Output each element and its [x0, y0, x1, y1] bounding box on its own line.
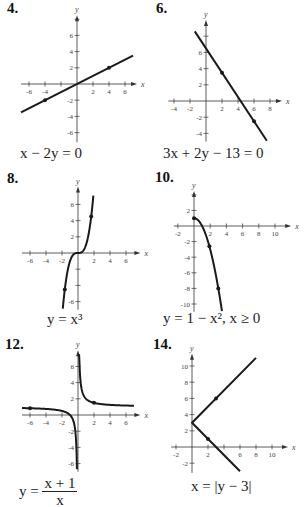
y-tick-label: 2 — [199, 81, 203, 89]
y-tick-label: 4 — [71, 217, 75, 225]
y-tick-label: -6 — [184, 269, 190, 277]
y-tick-label: -6 — [68, 460, 74, 468]
y-axis-arrow-icon — [192, 191, 196, 197]
y-tick-label: 8 — [185, 379, 189, 387]
x-tick-label: -4 — [42, 88, 48, 96]
y-axis-label: y — [189, 344, 194, 353]
equation-14: x = |y − 3| — [191, 478, 251, 495]
x-tick-label: 6 — [252, 105, 256, 113]
point-marker — [89, 215, 93, 219]
y-axis-arrow-icon — [75, 15, 79, 21]
y-tick-label: 6 — [71, 201, 75, 209]
y-tick-label: -4 — [68, 444, 74, 452]
y-tick-label: -2 — [68, 428, 74, 436]
y-tick-label: 6 — [71, 363, 75, 371]
y-axis-arrow-icon — [190, 354, 194, 360]
x-tick-label: -2 — [187, 105, 193, 113]
y-tick-label: -4 — [67, 113, 73, 121]
y-tick-label: -6 — [68, 298, 74, 306]
x-axis-arrow-icon — [285, 224, 291, 228]
y-tick-label: 6 — [70, 32, 74, 40]
problem-number-14: 14. — [153, 336, 172, 353]
chart-p12: xy-6-4-2246-6-4-2246 — [22, 340, 148, 472]
y-axis-label: y — [75, 177, 80, 186]
y-tick-label: -4 — [184, 254, 190, 262]
x-axis-arrow-icon — [134, 413, 140, 417]
y-axis-label: y — [203, 10, 208, 19]
point-marker — [207, 244, 211, 248]
x-tick-label: 4 — [108, 419, 112, 427]
x-tick-label: -6 — [27, 419, 33, 427]
x-axis-label: x — [140, 80, 145, 89]
x-tick-label: 6 — [123, 88, 127, 96]
point-marker — [107, 66, 111, 70]
x-tick-label: -4 — [43, 419, 49, 427]
x-tick-label: 4 — [107, 88, 111, 96]
x-tick-label: 2 — [92, 419, 96, 427]
y-tick-label: 4 — [185, 411, 189, 419]
y-axis-arrow-icon — [204, 20, 208, 26]
x-axis-arrow-icon — [134, 251, 140, 255]
y-tick-label: -2 — [67, 97, 73, 105]
point-marker — [92, 401, 96, 405]
x-axis-label: x — [291, 443, 296, 452]
equation-8: y = x³ — [47, 311, 82, 328]
equation-12-fraction: x + 1 x — [42, 475, 77, 507]
y-tick-label: 2 — [71, 395, 75, 403]
y-tick-label: 4 — [71, 379, 75, 387]
graphs-canvas: xy-6-4246-6-4-2246xy-4-22468-4-2246xy-6-… — [0, 0, 306, 507]
point-marker — [63, 287, 67, 291]
problem-number-4: 4. — [7, 0, 18, 17]
x-axis-label: x — [143, 249, 148, 258]
y-tick-label: 4 — [70, 48, 74, 56]
y-tick-label: -10 — [181, 301, 191, 309]
x-tick-label: 2 — [92, 257, 96, 265]
point-marker — [28, 406, 32, 410]
x-tick-label: 4 — [108, 257, 112, 265]
x-tick-label: -6 — [26, 88, 32, 96]
x-tick-label: 2 — [91, 88, 95, 96]
x-tick-label: -2 — [175, 230, 181, 238]
y-tick-label: -6 — [67, 129, 73, 137]
x-tick-label: 4 — [225, 230, 229, 238]
x-tick-label: 10 — [272, 230, 280, 238]
y-tick-label: 4 — [199, 65, 203, 73]
x-tick-label: -2 — [173, 451, 179, 459]
chart-p14: xy-226810-2246810 — [171, 344, 296, 473]
y-tick-label: -2 — [182, 460, 188, 468]
equation-12: y = x + 1 x — [19, 475, 77, 507]
y-axis-arrow-icon — [76, 187, 80, 193]
chart-p6: xy-4-22468-4-2246 — [168, 10, 290, 142]
point-marker — [252, 119, 256, 123]
x-tick-label: -4 — [43, 257, 49, 265]
point-marker — [214, 396, 218, 400]
problem-number-8: 8. — [7, 170, 18, 187]
point-marker — [206, 437, 210, 441]
y-axis-label: y — [75, 340, 80, 349]
problem-number-12: 12. — [5, 336, 24, 353]
x-axis-label: x — [285, 97, 290, 106]
equation-12-numerator: x + 1 — [42, 475, 77, 492]
x-tick-label: 8 — [254, 451, 258, 459]
x-tick-label: 4 — [236, 105, 240, 113]
y-tick-label: 2 — [70, 64, 74, 72]
y-tick-label: -8 — [184, 285, 190, 293]
x-axis-arrow-icon — [276, 99, 282, 103]
x-tick-label: 2 — [206, 451, 210, 459]
x-axis-arrow-icon — [282, 445, 288, 449]
chart-p8: xy-6-4-2246-6246 — [22, 177, 148, 310]
x-tick-label: -6 — [27, 257, 33, 265]
x-tick-label: 8 — [257, 230, 261, 238]
x-tick-label: 2 — [208, 230, 212, 238]
y-tick-label: -4 — [196, 130, 202, 138]
x-tick-label: -4 — [171, 105, 177, 113]
y-tick-label: 10 — [181, 363, 189, 371]
equation-10: y = 1 − x², x ≥ 0 — [163, 310, 260, 327]
chart-p10: xy-2246810-10-8-6-4-22 — [174, 181, 299, 312]
x-tick-label: 6 — [238, 451, 242, 459]
x-tick-label: 6 — [124, 419, 128, 427]
y-tick-label: 2 — [185, 427, 189, 435]
x-tick-label: -2 — [59, 419, 65, 427]
y-axis-label: y — [74, 5, 79, 14]
problem-number-10: 10. — [155, 169, 174, 186]
